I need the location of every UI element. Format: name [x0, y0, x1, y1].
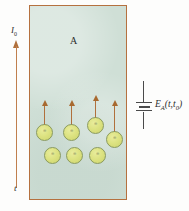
physics-diagram-figure: A I0 t ⊕⊕⊕⊕⊕⊕⊕ EA(t,t0) [0, 0, 189, 211]
emf-lead-bottom [143, 112, 144, 129]
particle-1: ⊕ [36, 124, 53, 141]
particle-charge-mark: ⊕ [107, 136, 122, 140]
time-label: t [14, 183, 17, 193]
current-label: I0 [11, 25, 17, 37]
current-arrow-shaft [16, 46, 17, 188]
emf-label-args: (t,t [165, 99, 176, 109]
particle-charge-mark: ⊕ [67, 152, 82, 156]
emf-lead-top [143, 81, 144, 102]
particle-charge-mark: ⊕ [64, 129, 79, 133]
emf-plate-long-lower [136, 110, 152, 111]
particle-6: ⊕ [66, 147, 83, 164]
particle-charge-mark: ⊕ [90, 152, 105, 156]
particle-5: ⊕ [44, 147, 61, 164]
particle-charge-mark: ⊕ [45, 152, 60, 156]
particle-charge-mark: ⊕ [37, 129, 52, 133]
emf-label: EA(t,t0) [155, 99, 182, 111]
emf-label-close: ) [179, 99, 182, 109]
particle-3: ⊕ [87, 117, 104, 134]
particle-2: ⊕ [63, 124, 80, 141]
region-a-label: A [70, 35, 77, 46]
particle-7: ⊕ [89, 147, 106, 164]
emf-plate-long-upper [136, 102, 152, 103]
emf-plate-short [139, 106, 150, 108]
current-label-subscript: 0 [14, 31, 17, 37]
particle-charge-mark: ⊕ [88, 122, 103, 126]
particle-4: ⊕ [106, 131, 123, 148]
